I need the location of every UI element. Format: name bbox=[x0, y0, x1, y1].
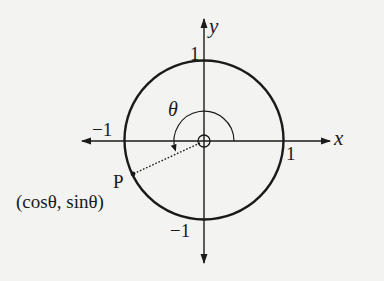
angle-theta-label: θ bbox=[168, 99, 178, 119]
tick-label-x-positive: 1 bbox=[286, 144, 296, 163]
point-p bbox=[131, 172, 136, 177]
x-axis-label: x bbox=[334, 128, 343, 149]
unit-circle-diagram: y x 1 1 −1 −1 θ P (cosθ, sinθ) bbox=[0, 0, 384, 281]
point-p-coordinates: (cosθ, sinθ) bbox=[16, 192, 104, 211]
point-p-label: P bbox=[113, 172, 124, 191]
y-axis-label: y bbox=[209, 16, 218, 37]
tick-label-y-positive: 1 bbox=[190, 44, 200, 63]
tick-label-x-negative: −1 bbox=[92, 120, 112, 139]
tick-label-y-negative: −1 bbox=[170, 221, 190, 240]
radius-to-p bbox=[133, 143, 200, 174]
